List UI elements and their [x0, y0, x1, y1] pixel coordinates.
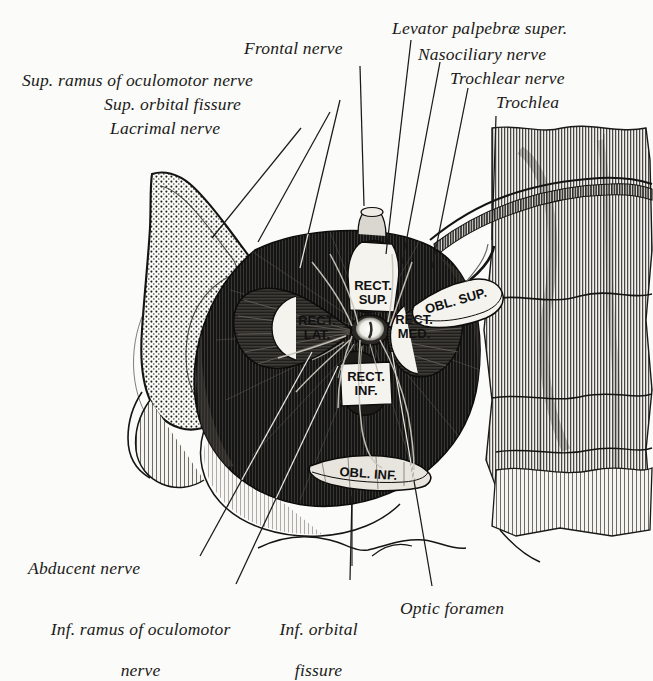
label-abducent-nerve: Abducent nerve [28, 558, 140, 579]
temporal-soft-tissue [484, 126, 652, 506]
rect-med-line2: MED. [398, 326, 431, 341]
label-nasociliary-nerve: Nasociliary nerve [418, 44, 546, 65]
label-inf-orbital-fissure-line1: Inf. orbital [279, 619, 357, 639]
label-trochlea: Trochlea [496, 92, 559, 113]
rect-sup-line1: RECT. [354, 278, 392, 293]
label-sup-orbital-fissure: Sup. orbital fissure [104, 94, 241, 115]
rect-inf-line1: RECT. [347, 369, 385, 384]
label-lacrimal-nerve: Lacrimal nerve [110, 118, 220, 139]
label-inf-ramus-oculomotor: Inf. ramus of oculomotor nerve [18, 598, 254, 681]
lower-temporal-tissue [492, 468, 652, 536]
label-inf-orbital-fissure: Inf. orbital fissure [258, 598, 370, 681]
rect-inf-line2: INF. [354, 383, 377, 398]
muscle-tag-rect-lat: RECT. LAT. [298, 313, 336, 342]
rect-lat-line2: LAT. [304, 327, 330, 342]
muscle-tag-rect-sup: RECT. SUP. [354, 278, 392, 307]
rect-lat-line1: RECT. [298, 313, 336, 328]
label-levator-palpebrae: Levator palpebræ super. [392, 18, 567, 39]
label-trochlear-nerve: Trochlear nerve [450, 68, 565, 89]
label-frontal-nerve: Frontal nerve [244, 38, 343, 59]
rect-sup-line2: SUP. [359, 292, 388, 307]
label-inf-orbital-fissure-line2: fissure [295, 660, 342, 680]
label-inf-ramus-oculomotor-line1: Inf. ramus of oculomotor [51, 619, 231, 639]
label-optic-foramen: Optic foramen [400, 598, 504, 619]
label-sup-ramus-oculomotor: Sup. ramus of oculomotor nerve [22, 70, 253, 91]
label-inf-ramus-oculomotor-line2: nerve [121, 660, 161, 680]
